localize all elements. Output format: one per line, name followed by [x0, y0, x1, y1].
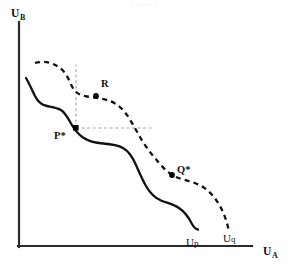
y-axis-label: U B — [11, 7, 26, 22]
point-q-star-marker — [169, 172, 175, 178]
figure-canvas: U B U A U p U q P* — [0, 0, 290, 265]
utility-frontier-figure: Figure 2 U B U A U p U — [0, 0, 290, 265]
point-r-label: R — [101, 78, 109, 89]
y-axis-label-main: U — [11, 7, 20, 19]
curve-label-up: U p — [186, 236, 199, 248]
x-axis-label-main: U — [263, 245, 272, 257]
curve-uq — [35, 62, 229, 232]
curve-label-uq-sub: q — [231, 234, 236, 244]
curve-label-uq: U q — [223, 232, 236, 244]
point-q-star: Q* — [169, 164, 190, 178]
point-p-star: P* — [54, 125, 79, 141]
curve-label-up-main: U — [186, 236, 194, 248]
x-axis-label-sub: A — [272, 251, 278, 260]
point-p-star-marker — [73, 125, 79, 131]
point-r-marker — [93, 93, 99, 99]
curve-label-up-sub: p — [194, 238, 199, 248]
x-axis-label: U A — [263, 245, 278, 260]
point-p-star-label: P* — [54, 130, 66, 141]
point-q-star-label: Q* — [177, 164, 190, 175]
curve-label-uq-main: U — [223, 232, 231, 244]
point-r: R — [93, 78, 109, 99]
y-axis-label-sub: B — [20, 13, 26, 22]
